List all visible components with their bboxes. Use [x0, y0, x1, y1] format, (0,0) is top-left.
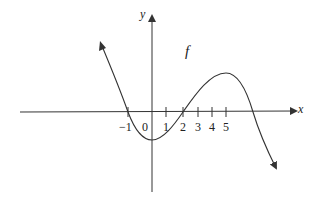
y-axis-label: y — [139, 7, 146, 21]
x-axis — [20, 111, 296, 112]
function-label: f — [185, 43, 191, 59]
x-axis-label: x — [297, 102, 304, 116]
tick-label-0: 0 — [142, 120, 148, 134]
tick-label-3: 3 — [195, 120, 201, 134]
tick-label-1: 1 — [163, 120, 169, 134]
tick-label-2: 2 — [180, 120, 186, 134]
tick-label-neg1: −1 — [119, 120, 132, 134]
function-graph: y x f −1 0 1 2 3 4 5 — [0, 0, 313, 201]
tick-label-5: 5 — [223, 120, 229, 134]
tick-label-4: 4 — [209, 120, 215, 134]
left-arrow-icon — [99, 41, 106, 51]
